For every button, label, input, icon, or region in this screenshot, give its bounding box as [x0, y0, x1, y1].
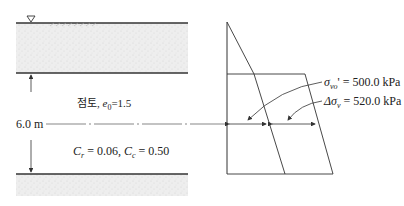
sigma-vo-label: σvo' = 500.0 kPa: [324, 76, 400, 91]
upper-sand-layer: [16, 23, 188, 73]
delta-sigma-label: Δσv = 520.0 kPa: [324, 95, 401, 110]
sigma-leader: [248, 82, 322, 120]
thickness-label: 6.0 m: [16, 118, 43, 130]
lower-sand-layer: [16, 174, 188, 196]
clay-layer-label: 점토, e0=1.5: [77, 98, 131, 112]
water-table-icon: [27, 16, 35, 22]
compression-indices-label: Cr = 0.06, Cc = 0.50: [73, 145, 169, 160]
